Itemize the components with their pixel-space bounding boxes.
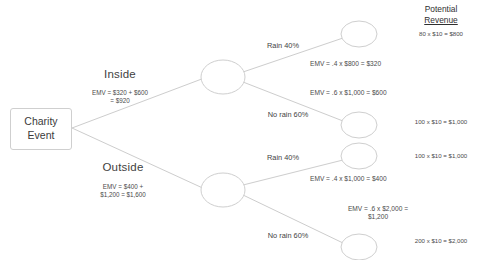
root-decision-node: Charity Event	[10, 108, 72, 150]
outcome-emv-inside-rain: EMV = .4 x $800 = $320	[310, 60, 381, 67]
outcome-emv-outside-norain-line1: EMV = .6 x $2,000 =	[303, 205, 453, 213]
branch-emv-outside-line2: $1,200 = $1,600	[48, 191, 198, 199]
branch-emv-inside-line1: EMV = $320 + $600	[45, 89, 195, 97]
root-node-label-line1: Charity	[24, 115, 57, 127]
potential-revenue-header: Potential Revenue	[386, 4, 494, 27]
terminal-node-inside-norain	[341, 112, 377, 138]
branch-emv-outside-line1: EMV = $400 +	[48, 183, 198, 191]
terminal-node-outside-norain	[341, 234, 377, 260]
revenue-outside-rain: 100 x $10 = $1,000	[415, 152, 467, 159]
terminal-node-inside-rain	[341, 21, 377, 47]
branch-emv-inside-line2: = $920	[45, 97, 195, 105]
branch-emv-inside: EMV = $320 + $600 = $920	[45, 89, 195, 105]
probability-label-inside-norain: No rain 60%	[268, 110, 309, 119]
root-node-label-line2: Event	[28, 129, 55, 141]
chance-node-outside	[201, 173, 245, 207]
revenue-outside-norain: 200 x $10 = $2,000	[415, 237, 467, 244]
edge-root-to-outside	[72, 128, 207, 190]
branch-label-outside: Outside	[102, 161, 143, 173]
revenue-inside-norain: 100 x $10 = $1,000	[415, 118, 467, 125]
outcome-emv-outside-norain-line2: $1,200	[303, 213, 453, 221]
root-node-label: Charity Event	[24, 115, 57, 142]
chance-node-inside	[201, 60, 245, 94]
potential-revenue-header-line2: Revenue	[386, 15, 494, 26]
revenue-inside-rain: 80 x $10 = $800	[419, 30, 463, 37]
probability-label-outside-norain: No rain 60%	[268, 231, 309, 240]
branch-emv-outside: EMV = $400 + $1,200 = $1,600	[48, 183, 198, 199]
branch-label-inside: Inside	[104, 68, 136, 80]
outcome-emv-outside-rain: EMV = .4 x $1,000 = $400	[310, 175, 387, 182]
potential-revenue-header-line1: Potential	[386, 4, 494, 15]
terminal-node-outside-rain	[341, 143, 377, 169]
outcome-emv-inside-norain: EMV = .6 x $1,000 = $600	[310, 89, 387, 96]
probability-label-inside-rain: Rain 40%	[267, 41, 299, 50]
probability-label-outside-rain: Rain 40%	[267, 153, 299, 162]
outcome-emv-outside-norain: EMV = .6 x $2,000 = $1,200	[303, 205, 453, 221]
